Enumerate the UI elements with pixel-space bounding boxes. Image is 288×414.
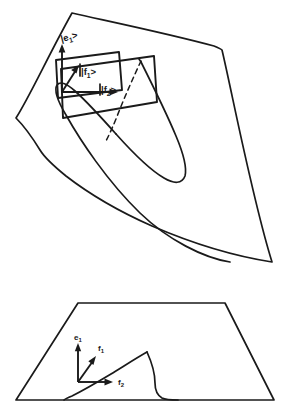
label-f2-ket: |f2> <box>101 84 117 97</box>
svg-text:|f1>: |f1> <box>81 66 97 79</box>
basis-vector-e1-proj <box>75 343 81 382</box>
label-f2-bracket: > <box>111 84 117 95</box>
label-e1-plain-subscript: 1 <box>78 337 82 343</box>
svg-text:f2: f2 <box>118 378 125 388</box>
fold-curve-lower <box>56 83 230 262</box>
svg-text:f1: f1 <box>98 344 105 354</box>
label-f1-plain-subscript: 1 <box>101 348 105 354</box>
svg-text:e1: e1 <box>74 333 82 343</box>
projected-cusp-left-branch <box>64 352 147 400</box>
surface-outline <box>16 13 272 262</box>
basis-vector-f2-proj <box>78 379 113 386</box>
label-f1-ket: |f1> <box>81 66 97 79</box>
label-f2-plain-subscript: 2 <box>121 382 125 388</box>
label-e1-bracket: > <box>71 29 79 41</box>
label-f1-plain: f1 <box>98 344 105 354</box>
label-f2-plain: f2 <box>118 378 125 388</box>
folded-surface-panel: |e1> |f1> |f2> <box>0 0 288 285</box>
projection-panel: e1 f1 f2 <box>0 295 288 414</box>
fold-curve-upper <box>116 62 186 182</box>
label-f1-bracket: > <box>91 66 97 77</box>
svg-text:|f2>: |f2> <box>101 84 117 97</box>
trapezoid-base-outline <box>16 303 274 400</box>
basis-vector-f1-proj <box>78 356 96 382</box>
hidden-dashed-edge <box>106 61 141 141</box>
projected-cusp-right-branch <box>147 352 178 400</box>
label-e1-plain: e1 <box>74 333 82 343</box>
figure-root: |e1> |f1> |f2> <box>0 0 288 414</box>
